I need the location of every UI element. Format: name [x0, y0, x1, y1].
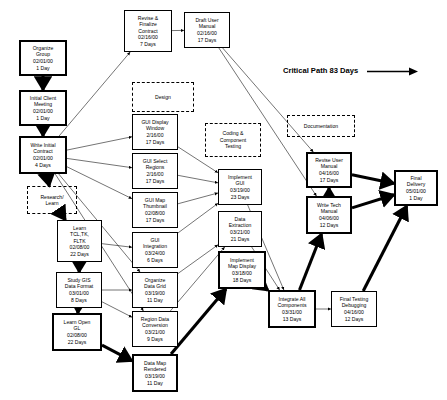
task-name: Final Testing Debugging	[340, 296, 369, 309]
task-name: Draft User Manual	[195, 17, 218, 30]
phase-group-coding: Coding & Component Testing	[205, 123, 261, 157]
task-name: Organize Data Grid	[144, 277, 166, 290]
edge-write_contract-to-gui_display	[67, 137, 132, 150]
task-name: Learn Open GL	[64, 319, 91, 332]
task-node-learn_tcl[interactable]: Learn TCL,TK, FLTK02/08/0022 Days	[57, 220, 102, 262]
task-name: Data Extraction	[229, 216, 252, 229]
task-node-organize_group[interactable]: Organize Group02/01/001 Day	[19, 40, 67, 76]
critical-path-legend-label: Critical Path 83 Days	[283, 66, 358, 75]
task-duration: 8 Days	[71, 297, 87, 304]
edge-revise_user_man-to-final_delivery	[352, 175, 394, 184]
task-node-gui_select[interactable]: GUI Select Regions2/16/0017 Days	[132, 153, 178, 189]
task-node-implement_map[interactable]: Implement Map Display03/18/0018 Days	[218, 251, 266, 289]
task-duration: 22 Days	[70, 251, 89, 258]
edge-learn_opengl-to-data_map_render	[102, 345, 132, 361]
edge-integrate_all-to-write_tech_man	[299, 234, 321, 290]
edge-write_contract-to-research_learn	[47, 174, 49, 186]
task-node-data_map_render[interactable]: Data Map Rendered03/19/0011 Day	[132, 354, 178, 392]
task-node-region_conv[interactable]: Region Data Conversion03/21/009 Days	[132, 311, 178, 347]
task-node-organize_grid[interactable]: Organize Data Grid03/19/0011 Day	[132, 272, 178, 308]
task-name: GUI Integration	[143, 237, 167, 250]
task-duration: 1 Day	[36, 115, 49, 122]
task-node-draft_manual[interactable]: Draft User Manual02/16/0017 Days	[184, 12, 230, 48]
task-duration: 22 Days	[68, 339, 87, 346]
task-node-learn_opengl[interactable]: Learn Open GL02/08/0022 Days	[52, 313, 102, 351]
task-duration: 12 Days	[345, 316, 364, 323]
phase-label: Design	[155, 94, 171, 100]
edge-write_contract-to-gui_select	[67, 158, 132, 167]
task-duration: 17 Days	[146, 139, 165, 146]
edge-study_gis-to-region_conv	[102, 302, 132, 317]
edge-gui_integration-to-implement_gui	[178, 203, 218, 233]
task-duration: 1 Day	[409, 195, 422, 202]
task-node-integrate_all[interactable]: Integrate All Components03/31/0013 Days	[268, 290, 316, 328]
phase-group-docs: Documentation	[287, 115, 355, 137]
task-node-data_extraction[interactable]: Data Extraction03/21/0021 Days	[218, 211, 262, 247]
task-node-study_gis[interactable]: Study GIS Data Format03/01/008 Days	[56, 272, 102, 308]
phase-label: Coding & Component Testing	[220, 130, 246, 149]
task-name: Revise & Finalize Contract	[138, 15, 158, 35]
edge-organize_grid-to-data_extraction	[178, 245, 218, 274]
task-node-initial_meeting[interactable]: Initial Client Meeting02/01/001 Day	[19, 90, 67, 126]
task-name: Implement GUI	[228, 174, 252, 187]
phase-label: Documentation	[304, 123, 338, 129]
task-node-write_tech_man[interactable]: Write Tech Manual04/06/0012 Days	[306, 196, 352, 234]
task-duration: 12 Days	[320, 222, 339, 229]
task-duration: 17 Days	[198, 37, 217, 44]
task-duration: 11 Day	[147, 297, 163, 304]
task-duration: 23 Days	[231, 194, 250, 201]
task-duration: 21 Days	[231, 236, 250, 243]
task-node-gui_integration[interactable]: GUI Integration03/24/006 Days	[132, 232, 178, 268]
task-node-gui_display[interactable]: GUI Display Window2/16/0017 Days	[132, 114, 178, 150]
task-name: Organize Group	[33, 45, 54, 58]
phase-group-design: Design	[132, 82, 194, 112]
task-duration: 17 Days	[146, 217, 165, 224]
task-name: GUI Display Window	[141, 119, 168, 132]
task-duration: 13 Days	[283, 316, 302, 323]
task-name: Region Data Conversion	[141, 316, 169, 329]
edge-data_map_render-to-implement_map	[171, 289, 226, 354]
task-name: Data Map Rendered	[144, 360, 166, 373]
task-name: Implement Map Display	[228, 257, 256, 270]
edge-gui_select-to-implement_gui	[178, 175, 218, 183]
task-name: Initial Client Meeting	[30, 95, 56, 108]
task-node-final_delivery[interactable]: Final Delivery05/01/001 Day	[394, 170, 438, 206]
task-name: Research/ Learn	[40, 194, 63, 207]
task-name: Write Initial Contract	[30, 142, 55, 155]
task-node-revise_contract[interactable]: Revise & Finalize Contract02/16/007 Days	[124, 10, 172, 52]
task-node-write_contract[interactable]: Write Initial Contract02/01/004 Days	[19, 136, 67, 174]
task-name: Revise User Manual	[315, 157, 343, 170]
task-node-final_testing[interactable]: Final Testing Debugging04/16/0012 Days	[331, 291, 377, 327]
task-duration: 18 Days	[233, 277, 252, 284]
task-duration: 6 Days	[147, 257, 163, 264]
task-duration: 7 Days	[140, 41, 156, 48]
task-name: Final Delivery	[407, 175, 425, 188]
task-node-revise_user_man[interactable]: Revise User Manual04/16/0017 Days	[306, 152, 352, 188]
task-name: Learn TCL,TK, FLTK	[70, 225, 89, 245]
task-node-research_learn[interactable]: Research/ Learn	[27, 186, 77, 214]
right-arrow-icon	[367, 67, 419, 76]
edge-final_testing-to-final_delivery	[363, 206, 407, 291]
task-duration: 4 Days	[35, 162, 51, 169]
task-duration: 17 Days	[146, 178, 165, 185]
project-network-diagram: Organize Group02/01/001 DayInitial Clien…	[0, 0, 447, 400]
task-duration: 17 Days	[320, 177, 339, 184]
task-node-gui_thumbnail[interactable]: GUI Map Thumbnail02/08/0017 Days	[132, 192, 178, 228]
edge-gui_thumbnail-to-implement_gui	[178, 193, 218, 204]
task-name: GUI Map Thumbnail	[143, 197, 167, 210]
task-duration: 9 Days	[147, 336, 163, 343]
task-name: GUI Select Regions	[143, 158, 168, 171]
task-node-implement_gui[interactable]: Implement GUI03/19/0023 Days	[218, 169, 262, 205]
task-name: Integrate All Components	[278, 296, 307, 309]
critical-path-legend: Critical Path 83 Days	[283, 66, 419, 76]
task-name: Study GIS Data Format	[65, 277, 93, 290]
edge-write_contract-to-revise_contract	[59, 52, 130, 136]
task-name: Write Tech Manual	[317, 202, 341, 215]
edge-write_tech_man-to-final_delivery	[352, 195, 394, 208]
task-duration: 11 Day	[147, 380, 163, 387]
task-duration: 1 Day	[36, 65, 49, 72]
